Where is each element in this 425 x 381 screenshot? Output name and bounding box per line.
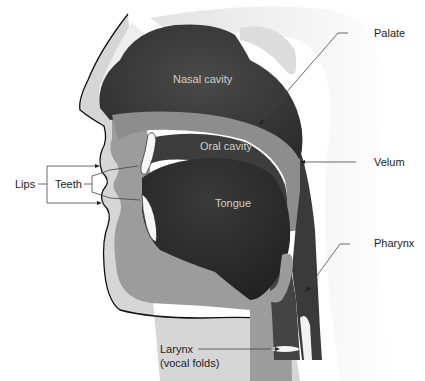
teeth-label: Teeth	[55, 178, 82, 191]
pharynx-label: Pharynx	[374, 237, 414, 250]
nasal-cavity-label: Nasal cavity	[173, 73, 232, 86]
palate-label: Palate	[374, 27, 405, 40]
vocal-tract-diagram: Nasal cavity Oral cavity Tongue Palate V…	[0, 0, 425, 381]
tongue-label: Tongue	[215, 197, 251, 210]
larynx-label: Larynx	[160, 343, 193, 356]
oral-cavity-label: Oral cavity	[200, 140, 252, 153]
velum-label: Velum	[374, 156, 405, 169]
lips-label: Lips	[15, 178, 35, 191]
vocal-folds-label: (vocal folds)	[160, 357, 219, 370]
